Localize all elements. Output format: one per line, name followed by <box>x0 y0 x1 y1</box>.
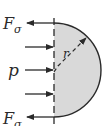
force-label-bottom: Fσ <box>2 109 22 126</box>
diagram-canvas: Fσ Fσ p r <box>0 0 112 126</box>
half-cylinder-section <box>54 23 101 117</box>
pressure-label: p <box>8 60 19 80</box>
force-label-top: Fσ <box>2 14 22 36</box>
